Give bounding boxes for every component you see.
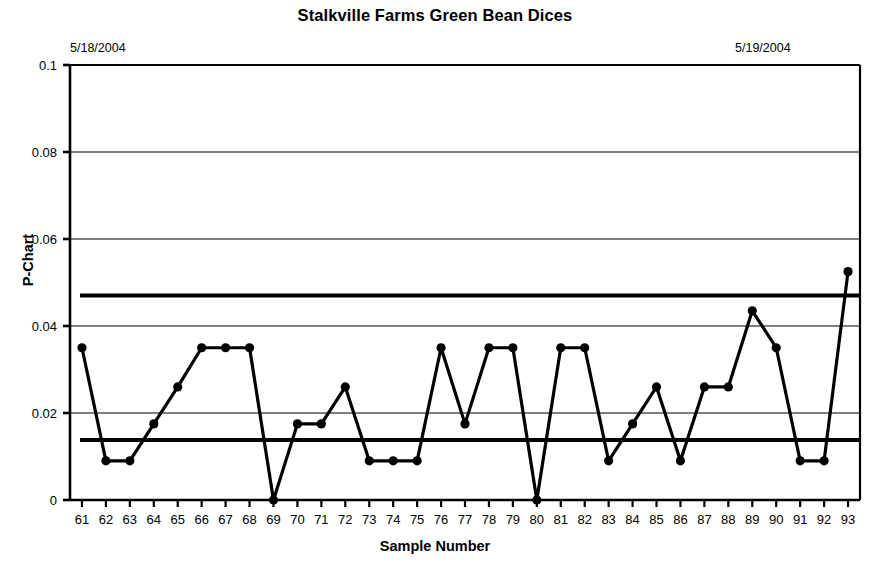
data-point [460, 419, 469, 428]
plot-canvas [0, 0, 870, 562]
x-tick-label: 86 [673, 512, 687, 527]
x-tick-label: 93 [841, 512, 855, 527]
x-tick-label: 61 [75, 512, 89, 527]
data-point [556, 343, 565, 352]
y-tick-label: 0 [0, 493, 57, 508]
data-point [413, 456, 422, 465]
data-point [365, 456, 374, 465]
x-tick-label: 92 [817, 512, 831, 527]
x-tick-label: 83 [601, 512, 615, 527]
data-point [652, 382, 661, 391]
data-point [293, 419, 302, 428]
data-point [245, 343, 254, 352]
data-point [508, 343, 517, 352]
y-tick-label: 0.02 [0, 406, 57, 421]
data-point [269, 495, 278, 504]
y-tick-label: 0.1 [0, 58, 57, 73]
x-tick-label: 91 [793, 512, 807, 527]
data-point [197, 343, 206, 352]
y-tick-label: 0.06 [0, 232, 57, 247]
data-point [341, 382, 350, 391]
data-point [580, 343, 589, 352]
x-tick-label: 90 [769, 512, 783, 527]
x-tick-label: 73 [362, 512, 376, 527]
data-point [700, 382, 709, 391]
x-tick-label: 64 [147, 512, 161, 527]
p-chart-figure: Stalkville Farms Green Bean Dices 5/18/2… [0, 0, 870, 562]
x-tick-label: 78 [482, 512, 496, 527]
x-tick-label: 84 [625, 512, 639, 527]
y-tick-label: 0.08 [0, 145, 57, 160]
x-tick-label: 67 [218, 512, 232, 527]
x-tick-label: 82 [577, 512, 591, 527]
x-tick-label: 88 [721, 512, 735, 527]
x-tick-label: 71 [314, 512, 328, 527]
x-tick-label: 79 [506, 512, 520, 527]
x-tick-label: 77 [458, 512, 472, 527]
data-point [843, 267, 852, 276]
data-point [772, 343, 781, 352]
x-tick-label: 69 [266, 512, 280, 527]
data-point [676, 456, 685, 465]
data-point [604, 456, 613, 465]
x-tick-label: 76 [434, 512, 448, 527]
x-tick-label: 80 [530, 512, 544, 527]
x-tick-label: 63 [123, 512, 137, 527]
x-tick-label: 89 [745, 512, 759, 527]
data-point [173, 382, 182, 391]
data-point [125, 456, 134, 465]
data-point [724, 382, 733, 391]
data-point [532, 495, 541, 504]
data-point [484, 343, 493, 352]
data-point [101, 456, 110, 465]
data-point [221, 343, 230, 352]
data-point [317, 419, 326, 428]
x-tick-label: 87 [697, 512, 711, 527]
data-point [389, 456, 398, 465]
data-point [77, 343, 86, 352]
x-tick-label: 75 [410, 512, 424, 527]
x-tick-label: 62 [99, 512, 113, 527]
data-point [628, 419, 637, 428]
x-tick-label: 72 [338, 512, 352, 527]
data-point [796, 456, 805, 465]
x-tick-label: 74 [386, 512, 400, 527]
x-tick-label: 85 [649, 512, 663, 527]
data-point [819, 456, 828, 465]
data-point [748, 306, 757, 315]
data-point [149, 419, 158, 428]
data-point [436, 343, 445, 352]
x-tick-label: 68 [242, 512, 256, 527]
plot-background [70, 65, 860, 500]
x-tick-label: 81 [554, 512, 568, 527]
x-tick-label: 66 [194, 512, 208, 527]
y-tick-label: 0.04 [0, 319, 57, 334]
x-tick-label: 70 [290, 512, 304, 527]
x-tick-label: 65 [170, 512, 184, 527]
